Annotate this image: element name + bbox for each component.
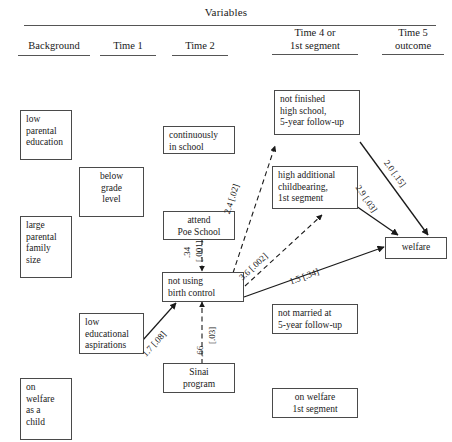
node-line: size (26, 255, 66, 267)
node-line: 1st segment (278, 404, 352, 416)
edge-label-poe-to-birthcontrol-coefficient: .34 (182, 247, 192, 258)
node-line: not using (168, 276, 238, 288)
node-line: not married at (278, 308, 352, 320)
node-below-grade-level: below grade level (79, 167, 144, 217)
node-low-parental-education: low parental education (20, 110, 72, 160)
node-not-using-birth-control: not using birth control (162, 272, 244, 302)
node-line: childbearing, (278, 182, 352, 194)
node-line: low (26, 114, 66, 126)
edge-label-sinai-to-birthcontrol-coefficient: .66 (195, 346, 205, 357)
node-line: welfare (26, 394, 66, 406)
node-line: child (26, 417, 66, 429)
node-line: birth control (168, 288, 238, 300)
node-line: high additional (278, 170, 352, 182)
edge-nothighschool-to-welfare (360, 142, 428, 235)
node-line: education (26, 137, 66, 149)
node-not-finished-high-school: not finished high school, 5-year follow-… (274, 90, 360, 135)
node-line: level (85, 194, 138, 206)
node-sinai-program: Sinai program (163, 363, 235, 393)
node-line: continuously (169, 130, 229, 142)
node-attend-poe-school: attend Poe School (163, 211, 235, 240)
node-line: Poe School (169, 227, 229, 239)
node-line: as a (26, 405, 66, 417)
node-on-welfare-as-a-child: on welfare as a child (20, 378, 72, 440)
node-not-married-5-year: not married at 5-year follow-up (272, 304, 358, 334)
node-line: aspirations (85, 340, 138, 352)
node-high-additional-childbearing: high additional childbearing, 1st segmen… (272, 166, 358, 209)
edge-label-sinai-to-birthcontrol-pvalue: [.03] (207, 327, 217, 344)
edge-birthcontrol-to-nothighschool (233, 146, 275, 273)
node-large-parental-family-size: large parental family size (20, 216, 72, 278)
node-line: attend (169, 215, 229, 227)
edge-childbearing-to-welfare (356, 206, 398, 235)
node-line: on (26, 382, 66, 394)
diagram-canvas: Variables Background Time 1 Time 2 Time … (0, 0, 452, 442)
node-line: parental (26, 232, 66, 244)
node-welfare: welfare (385, 237, 447, 259)
node-line: large (26, 220, 66, 232)
node-line: not finished (280, 94, 354, 106)
node-line: educational (85, 329, 138, 341)
node-line: Sinai (169, 367, 229, 379)
edge-label-poe-to-birthcontrol-pvalue: [.001] (194, 240, 204, 262)
node-low-educational-aspirations: low educational aspirations (79, 313, 144, 354)
node-line: program (169, 379, 229, 391)
node-line: 1st segment (278, 193, 352, 205)
node-line: welfare (391, 242, 441, 254)
node-line: grade (85, 183, 138, 195)
node-line: below (85, 171, 138, 183)
node-line: high school, (280, 106, 354, 118)
node-line: on welfare (278, 392, 352, 404)
node-line: low (85, 317, 138, 329)
node-line: 5-year follow-up (278, 320, 352, 332)
node-continuously-in-school: continuously in school (163, 126, 235, 154)
node-line: 5-year follow-up (280, 117, 354, 129)
node-line: family (26, 243, 66, 255)
node-on-welfare-1st-segment: on welfare 1st segment (272, 388, 358, 418)
node-line: parental (26, 126, 66, 138)
node-line: in school (169, 142, 229, 154)
